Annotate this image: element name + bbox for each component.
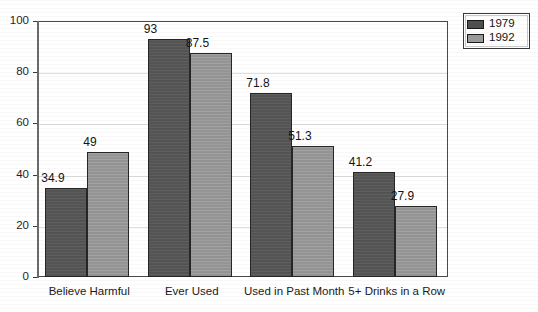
- bar-1992-1: [190, 53, 232, 277]
- bar-value-label: 71.8: [246, 77, 269, 89]
- bar-chart: 020406080100 34.9499387.571.851.341.227.…: [0, 0, 538, 312]
- y-tick-label: 0: [0, 271, 29, 283]
- bar-value-label: 51.3: [288, 130, 311, 142]
- legend-swatch-1979: [467, 20, 484, 29]
- bar-1992-3: [395, 206, 437, 277]
- bar-1979-3: [353, 172, 395, 277]
- y-tick-label: 40: [0, 169, 29, 181]
- legend-item-1979: 1979: [467, 17, 525, 31]
- bar-value-label: 34.9: [41, 172, 64, 184]
- bar-value-label: 41.2: [349, 156, 372, 168]
- bar-1992-2: [292, 146, 334, 277]
- y-tick-label: 20: [0, 220, 29, 232]
- legend-item-1992: 1992: [467, 31, 525, 45]
- bar-1992-0: [87, 152, 129, 277]
- bar-1979-2: [250, 93, 292, 277]
- bar-value-label: 27.9: [391, 190, 414, 202]
- legend-label-1979: 1979: [489, 18, 515, 30]
- legend: 1979 1992: [463, 13, 530, 49]
- x-axis-label-0: Believe Harmful: [38, 285, 141, 297]
- bar-value-label: 49: [83, 136, 96, 148]
- y-tick-label: 60: [0, 117, 29, 129]
- bar-value-label: 93: [144, 23, 157, 35]
- y-tick-label: 80: [0, 66, 29, 78]
- bars-layer: 34.9499387.571.851.341.227.9: [38, 21, 448, 277]
- bar-value-label: 87.5: [186, 37, 209, 49]
- y-axis: 020406080100: [0, 0, 38, 312]
- x-axis-label-3: 5+ Drinks in a Row: [346, 285, 449, 297]
- legend-label-1992: 1992: [489, 32, 515, 44]
- x-axis-label-2: Used in Past Month: [243, 285, 346, 297]
- y-tick-label: 100: [0, 15, 29, 27]
- bar-1979-1: [148, 39, 190, 277]
- bar-1979-0: [45, 188, 87, 277]
- legend-swatch-1992: [467, 34, 484, 43]
- x-axis-label-1: Ever Used: [141, 285, 244, 297]
